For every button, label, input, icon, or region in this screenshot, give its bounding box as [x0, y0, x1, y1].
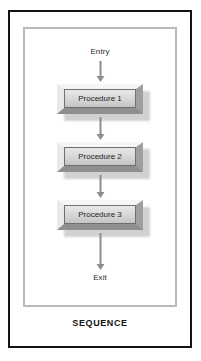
procedure-box-2[interactable]: Procedure 2: [57, 142, 143, 172]
arrow-head-icon: [96, 134, 104, 140]
procedure-box-3-label: Procedure 3: [78, 210, 122, 219]
arrow-procedure-3-to-exit: [96, 233, 105, 270]
arrow-shaft: [99, 233, 101, 264]
diagram-frame: Entry Procedure 1 Procedure 2: [23, 27, 177, 307]
box-face: Procedure 2: [64, 147, 136, 166]
exit-label: Exit: [25, 273, 175, 283]
procedure-box-2-label: Procedure 2: [78, 152, 122, 161]
figure-caption: SEQUENCE: [10, 318, 190, 328]
procedure-box-3[interactable]: Procedure 3: [57, 200, 143, 230]
procedure-box-1-label: Procedure 1: [78, 94, 122, 103]
arrow-procedure-2-to-procedure-3: [96, 175, 105, 198]
arrow-entry-to-procedure-1: [96, 61, 105, 82]
arrow-head-icon: [96, 76, 104, 82]
procedure-box-1[interactable]: Procedure 1: [57, 84, 143, 114]
arrow-shaft: [99, 61, 101, 76]
arrow-head-icon: [96, 264, 104, 270]
arrow-procedure-1-to-procedure-2: [96, 117, 105, 140]
box-face: Procedure 1: [64, 89, 136, 108]
arrow-head-icon: [96, 192, 104, 198]
arrow-shaft: [99, 175, 101, 192]
figure-card: Entry Procedure 1 Procedure 2: [8, 10, 192, 348]
entry-label: Entry: [25, 47, 175, 57]
arrow-shaft: [99, 117, 101, 134]
box-face: Procedure 3: [64, 205, 136, 224]
